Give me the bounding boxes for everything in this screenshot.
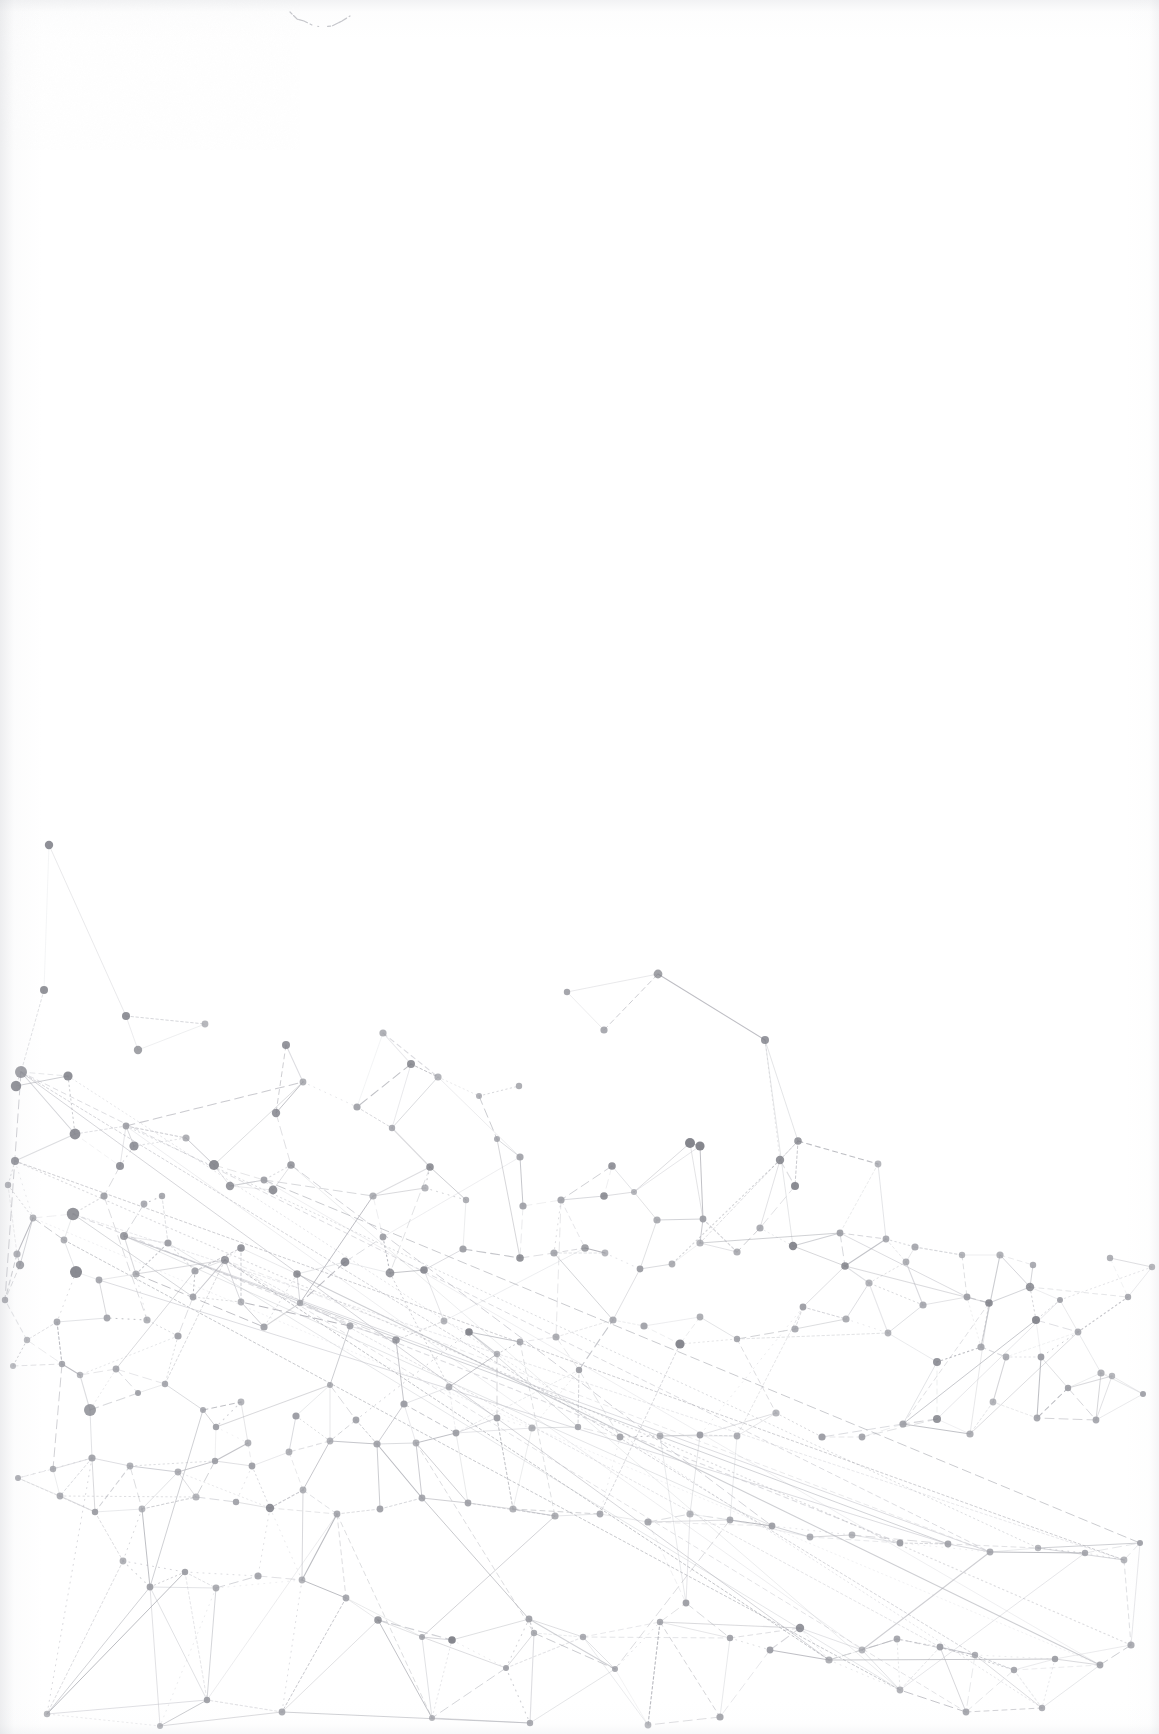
- network-node: [519, 1202, 526, 1209]
- network-node: [113, 1366, 120, 1373]
- network-node: [92, 1509, 98, 1515]
- network-node: [400, 1400, 407, 1407]
- network-node: [1039, 1705, 1045, 1711]
- network-node: [386, 1269, 395, 1278]
- network-node: [221, 1256, 229, 1264]
- network-node: [669, 1261, 676, 1268]
- network-node: [147, 1584, 154, 1591]
- network-node: [734, 1336, 740, 1342]
- network-node: [608, 1162, 616, 1170]
- network-node: [120, 1558, 127, 1565]
- network-node: [279, 1709, 286, 1716]
- network-graph-illustration: [0, 0, 1159, 1734]
- network-node: [897, 1687, 904, 1694]
- network-node: [164, 1239, 171, 1246]
- network-node: [353, 1103, 360, 1110]
- network-node: [776, 1156, 784, 1164]
- network-node: [327, 1382, 333, 1388]
- network-node: [516, 1153, 523, 1160]
- network-node: [897, 1540, 904, 1547]
- network-node: [734, 1433, 741, 1440]
- network-node: [434, 1073, 441, 1080]
- network-node: [945, 1541, 952, 1548]
- network-node: [1107, 1255, 1113, 1261]
- network-node: [789, 1242, 797, 1250]
- network-node: [875, 1161, 882, 1168]
- scanned-page: [0, 0, 1159, 1734]
- network-node: [1011, 1667, 1017, 1673]
- network-node: [287, 1161, 295, 1169]
- network-node: [564, 989, 570, 995]
- network-node: [419, 1495, 426, 1502]
- network-node: [50, 1466, 56, 1472]
- network-node: [919, 1301, 926, 1308]
- network-node: [1097, 1369, 1104, 1376]
- network-node: [162, 1381, 168, 1387]
- network-node: [463, 1197, 469, 1203]
- network-node: [459, 1245, 466, 1252]
- network-node: [192, 1493, 199, 1500]
- network-node: [657, 1433, 664, 1440]
- network-node: [972, 1652, 978, 1658]
- network-nodes-layer: [2, 841, 1155, 1729]
- network-node: [1034, 1415, 1041, 1422]
- network-node: [63, 1071, 72, 1080]
- network-node: [640, 1322, 647, 1329]
- network-node: [88, 1454, 95, 1461]
- network-node: [517, 1339, 524, 1346]
- network-node: [800, 1304, 807, 1311]
- network-node: [226, 1182, 234, 1190]
- network-node: [609, 1316, 616, 1323]
- network-node: [791, 1182, 799, 1190]
- network-node: [686, 1510, 693, 1517]
- network-node: [657, 1619, 663, 1625]
- network-node: [990, 1399, 997, 1406]
- network-node: [10, 1363, 16, 1369]
- network-node: [494, 1351, 500, 1357]
- network-node: [421, 1184, 428, 1191]
- network-node: [30, 1215, 37, 1222]
- network-node: [266, 1504, 274, 1512]
- network-node: [40, 986, 48, 994]
- network-node: [1026, 1283, 1034, 1291]
- network-node: [347, 1323, 354, 1330]
- network-node: [600, 1192, 608, 1200]
- network-node: [389, 1125, 395, 1131]
- network-node: [159, 1193, 165, 1199]
- network-node: [341, 1258, 350, 1267]
- network-edges-layer: [5, 845, 1152, 1726]
- network-node: [825, 1656, 832, 1663]
- network-node: [353, 1417, 360, 1424]
- network-node: [77, 1372, 83, 1378]
- network-node: [254, 1572, 261, 1579]
- network-node: [13, 1250, 20, 1257]
- network-node: [697, 1314, 704, 1321]
- network-node: [576, 1367, 582, 1373]
- network-node: [581, 1244, 589, 1252]
- network-node: [551, 1512, 558, 1519]
- network-node: [653, 1216, 660, 1223]
- network-node: [963, 1709, 970, 1716]
- network-node: [100, 1192, 107, 1199]
- network-node: [419, 1634, 425, 1640]
- network-node: [696, 1239, 703, 1246]
- network-node: [933, 1358, 941, 1366]
- network-node: [903, 1259, 910, 1266]
- network-node: [794, 1137, 802, 1145]
- network-node: [700, 1216, 707, 1223]
- network-node: [503, 1665, 509, 1671]
- network-node: [841, 1262, 849, 1270]
- network-node: [580, 1634, 586, 1640]
- network-node: [612, 1666, 618, 1672]
- network-node: [1057, 1297, 1063, 1303]
- network-node: [61, 1237, 68, 1244]
- network-node: [293, 1270, 301, 1278]
- network-node: [807, 1534, 814, 1541]
- network-node: [733, 1248, 740, 1255]
- network-node: [132, 1270, 139, 1277]
- network-node: [143, 1316, 150, 1323]
- network-node: [1075, 1329, 1082, 1336]
- network-node: [899, 1420, 906, 1427]
- network-node: [204, 1697, 210, 1703]
- network-node: [299, 1577, 306, 1584]
